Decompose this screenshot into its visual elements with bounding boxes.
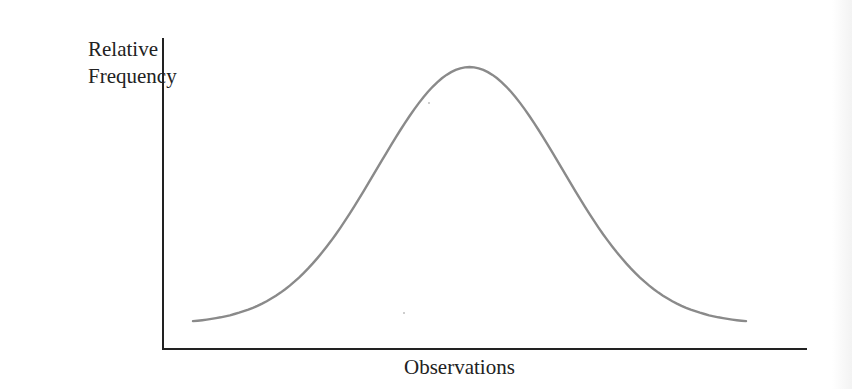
bell-curve — [193, 67, 746, 321]
speck — [428, 102, 429, 103]
x-axis-label: Observations — [404, 355, 515, 380]
speck — [403, 312, 404, 313]
chart-plot — [0, 0, 852, 389]
